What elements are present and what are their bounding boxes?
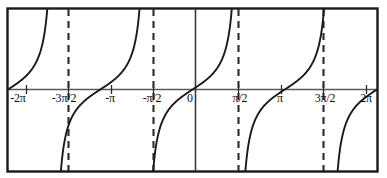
tangent-graph-figure: -2π-3π/2-π-π/20π/2π3π/22π: [0, 0, 387, 178]
x-tick-label: -2π: [10, 92, 25, 104]
x-tick-label: 2π: [360, 92, 372, 104]
x-tick-label: π: [277, 92, 283, 104]
x-tick-label: -3π/2: [52, 92, 76, 104]
x-tick-label: -π: [105, 92, 115, 104]
x-tick-label: 3π/2: [315, 92, 336, 104]
x-tick-label: -π/2: [143, 92, 162, 104]
plot-canvas: [0, 0, 387, 178]
x-tick-label: 0: [187, 92, 193, 104]
x-tick-label: π/2: [233, 92, 248, 104]
